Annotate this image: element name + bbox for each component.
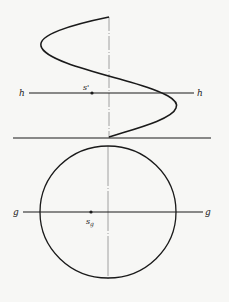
g-label-right: g xyxy=(205,207,211,217)
s-g-label-sub: g xyxy=(90,220,94,228)
projection-diagram: h h s' g g sg xyxy=(0,0,229,302)
s-g-point xyxy=(89,210,92,213)
s-prime-label: s' xyxy=(83,83,89,92)
g-label-left: g xyxy=(13,207,19,217)
h-label-left: h xyxy=(19,88,25,98)
s-prime-point xyxy=(90,91,93,94)
s-g-label: sg xyxy=(86,217,94,228)
h-label-right: h xyxy=(197,88,203,98)
